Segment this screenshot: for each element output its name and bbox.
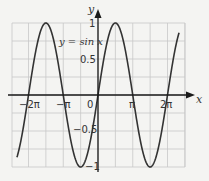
y-tick-neg1: −1 (85, 161, 100, 172)
x-tick-pi: π (129, 99, 135, 110)
x-axis-label: x (196, 93, 203, 106)
x-tick-2pi: 2π (160, 99, 172, 110)
x-tick-neg2pi: −2π (19, 99, 40, 110)
origin-label: 0 (87, 99, 93, 110)
x-tick-negpi: −π (56, 99, 70, 110)
x-axis-arrow-icon (186, 92, 195, 99)
y-tick-neg-0-5: −0.5 (73, 124, 97, 135)
y-axis-label: y (87, 3, 95, 16)
function-label: y = sin x (58, 36, 103, 47)
y-axis-arrow-icon (95, 9, 102, 18)
sine-chart: x y 0 −2π −π π 2π 1 0.5 −0.5 −1 y = sin … (0, 0, 209, 181)
y-tick-1: 1 (89, 18, 95, 29)
y-tick-0-5: 0.5 (80, 54, 96, 65)
